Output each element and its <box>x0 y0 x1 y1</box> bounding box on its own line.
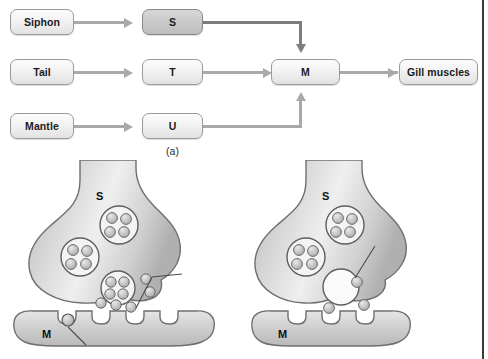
connector-u-to-m-vertical <box>299 100 302 128</box>
panel-b-presynaptic-label: S <box>96 190 103 202</box>
arrowhead-tail-to-t <box>124 68 133 78</box>
node-motor-m[interactable]: M <box>271 59 340 85</box>
arrowhead-s-to-m <box>296 44 306 53</box>
node-mantle[interactable]: Mantle <box>10 113 74 139</box>
connector-s-to-m-horizontal <box>202 21 302 24</box>
vesicle-2-c <box>287 238 325 276</box>
node-tail[interactable]: Tail <box>10 59 74 85</box>
panel-c: S <box>244 160 482 359</box>
vesicle-1-b <box>100 206 138 244</box>
node-sensory-s[interactable]: S <box>142 9 203 35</box>
bound-glutamate-receptor-b <box>62 314 74 326</box>
vesicle-2-b <box>61 238 99 276</box>
figure-root: Siphon Tail Mantle S T U M Gill muscles … <box>0 0 488 359</box>
panel-c-synapse-drawing: S <box>244 160 482 359</box>
connector-mantle-to-u <box>74 125 124 128</box>
node-siphon[interactable]: Siphon <box>10 9 74 35</box>
arrowhead-mantle-to-u <box>124 122 133 132</box>
panel-b-postsynaptic-label: M <box>42 328 51 340</box>
connector-s-to-m-vertical <box>299 21 302 46</box>
node-sensory-t[interactable]: T <box>142 59 203 85</box>
vesicle-1-c <box>326 206 364 244</box>
panel-a: Siphon Tail Mantle S T U M Gill muscles … <box>0 0 482 160</box>
connector-t-to-m <box>202 71 267 74</box>
panel-b-synapse-drawing: S <box>0 160 244 359</box>
connector-u-to-m-horizontal <box>202 125 302 128</box>
arrowhead-siphon-to-s <box>124 18 133 28</box>
fusing-empty-vesicle-c <box>323 269 359 305</box>
connector-siphon-to-s <box>74 21 124 24</box>
node-interneuron-u[interactable]: U <box>142 113 203 139</box>
panel-b: S <box>0 160 244 359</box>
arrowhead-u-to-m <box>296 92 306 101</box>
arrowhead-m-to-gill <box>388 68 397 78</box>
panel-a-caption: (a) <box>142 145 203 157</box>
panel-c-postsynaptic-label: M <box>278 328 287 340</box>
panel-c-presynaptic-label: S <box>322 190 329 202</box>
figure-right-rule <box>482 0 484 359</box>
node-gill-muscles[interactable]: Gill muscles <box>399 59 478 85</box>
postsynaptic-membrane-c <box>252 311 411 346</box>
connector-tail-to-t <box>74 71 124 74</box>
